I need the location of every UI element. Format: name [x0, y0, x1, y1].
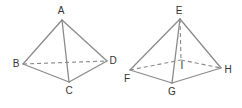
- vertex-label-h: H: [224, 64, 231, 75]
- edge-eh: [180, 19, 221, 68]
- edge-gh: [172, 68, 221, 83]
- vertex-label-g: G: [168, 86, 176, 97]
- edge-ad: [62, 20, 107, 61]
- vertex-label-a: A: [58, 5, 65, 16]
- edge-bc: [23, 64, 69, 82]
- edge-fg: [130, 70, 172, 83]
- edge-cd: [69, 61, 107, 82]
- hidden-edge-ei: [180, 19, 181, 60]
- geometry-diagram: ABCD EFGHI: [0, 0, 242, 108]
- edge-ab: [23, 20, 62, 64]
- vertex-label-d: D: [109, 55, 116, 66]
- square-pyramid-efghi: EFGHI: [124, 5, 232, 97]
- edge-ac: [62, 20, 69, 82]
- edge-ef: [130, 19, 180, 70]
- vertex-label-b: B: [13, 58, 20, 69]
- vertex-label-e: E: [176, 5, 183, 16]
- hidden-edge-bd: [23, 61, 107, 64]
- edge-eg: [172, 19, 180, 83]
- tetrahedron-abcd: ABCD: [13, 5, 117, 96]
- vertex-label-c: C: [65, 85, 72, 96]
- vertex-label-i: I: [181, 60, 184, 71]
- vertex-label-f: F: [124, 73, 130, 84]
